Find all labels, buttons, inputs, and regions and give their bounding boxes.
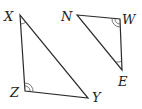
vertex-label-z: Z xyxy=(9,85,20,100)
triangle-nwe xyxy=(77,15,122,70)
vertex-label-y: Y xyxy=(92,90,102,105)
diagram-canvas: X N W Z Y E xyxy=(0,0,142,109)
triangle-xzy xyxy=(20,15,88,98)
triangle-nwe-outline xyxy=(77,15,122,70)
vertex-label-n: N xyxy=(60,9,73,24)
vertex-label-w: W xyxy=(122,12,137,27)
vertex-label-e: E xyxy=(117,74,128,89)
angle-arc-e xyxy=(116,61,122,62)
angle-arc-x xyxy=(21,22,26,24)
triangle-xzy-outline xyxy=(20,15,88,98)
vertex-label-x: X xyxy=(3,9,14,24)
